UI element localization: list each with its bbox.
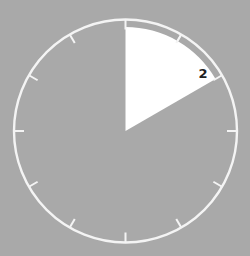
tick-240 (29, 182, 38, 187)
tick-150 (176, 219, 181, 228)
dial-graphic: 2 (0, 0, 250, 256)
tick-300 (29, 75, 38, 80)
tick-330 (70, 34, 75, 43)
timer-value-label: 2 (198, 66, 207, 81)
timer-dial[interactable]: 2 (0, 0, 250, 256)
tick-210 (70, 219, 75, 228)
tick-120 (213, 182, 222, 187)
